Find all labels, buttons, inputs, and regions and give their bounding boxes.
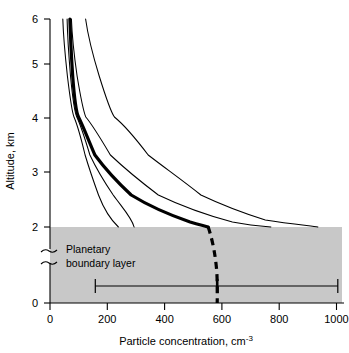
- pbl-annotation-line2: boundary layer: [66, 257, 136, 269]
- y-axis-ticks: [44, 19, 50, 303]
- y-tick-label-5: 5: [32, 58, 38, 70]
- profile-curve-3: [71, 19, 271, 227]
- y-tick-label-0: 0: [32, 297, 38, 309]
- y-axis-title: Altitude, km: [4, 132, 16, 189]
- particle-concentration-profile-chart: 6 5 4 3 2 0 0 200 400 600 800 1000 Parti…: [0, 0, 349, 353]
- x-tick-label-200: 200: [98, 313, 116, 325]
- y-tick-label-4: 4: [32, 112, 38, 124]
- x-axis-title-main: Particle concentration, cm: [119, 335, 246, 347]
- pbl-annotation-line1: Planetary: [66, 243, 111, 255]
- y-tick-label-2: 2: [32, 221, 38, 233]
- profile-curve-2: [67, 19, 134, 227]
- x-tick-label-800: 800: [270, 313, 288, 325]
- chart-svg: 6 5 4 3 2 0 0 200 400 600 800 1000 Parti…: [0, 0, 349, 353]
- x-tick-label-600: 600: [213, 313, 231, 325]
- profile-curve-4: [86, 19, 318, 227]
- x-tick-label-400: 400: [155, 313, 173, 325]
- svg-text:Particle concentration, cm-3: Particle concentration, cm-3: [119, 334, 253, 347]
- y-tick-label-3: 3: [32, 166, 38, 178]
- x-axis-title: Particle concentration, cm-3: [119, 334, 253, 347]
- x-axis-ticks: [50, 303, 337, 310]
- x-axis-title-superscript: -3: [246, 334, 254, 343]
- x-tick-label-0: 0: [47, 313, 53, 325]
- x-tick-label-1000: 1000: [324, 313, 348, 325]
- y-tick-label-6: 6: [32, 13, 38, 25]
